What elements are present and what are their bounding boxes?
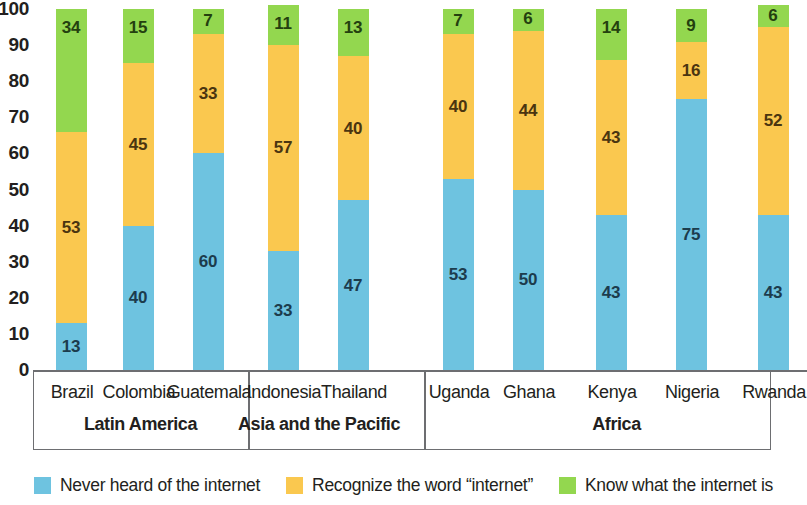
bar-kenya: 144343 — [596, 9, 627, 370]
bar-value-label: 40 — [443, 98, 474, 115]
bar-segment: 34 — [56, 9, 87, 132]
y-axis: 1009080706050403020100 — [0, 0, 33, 372]
y-axis-tick: 10 — [8, 323, 29, 345]
bar-value-label: 60 — [193, 253, 224, 270]
bar-value-label: 7 — [443, 12, 474, 29]
category-label-box: BrazilColombiaGuatemalaIndonesiaThailand… — [33, 372, 771, 450]
bar-segment: 40 — [443, 34, 474, 178]
y-axis-tick: 40 — [8, 215, 29, 237]
bar-value-label: 13 — [338, 19, 369, 36]
bar-segment: 6 — [513, 9, 544, 31]
bar-value-label: 15 — [123, 19, 154, 36]
bar-value-label: 14 — [596, 19, 627, 36]
legend-label: Recognize the word “internet” — [312, 475, 533, 496]
y-axis-tick: 30 — [8, 251, 29, 273]
legend-swatch-icon — [34, 477, 51, 494]
y-axis-tick: 70 — [8, 106, 29, 128]
y-axis-tick: 20 — [8, 287, 29, 309]
x-axis-label-thailand: Thailand — [321, 382, 387, 403]
y-axis-tick: 50 — [8, 179, 29, 201]
group-divider — [424, 372, 426, 449]
y-axis-tick: 100 — [0, 0, 29, 20]
bar-value-label: 13 — [56, 338, 87, 355]
bar-segment: 16 — [676, 42, 707, 100]
bar-segment: 43 — [758, 215, 789, 370]
bar-guatemala: 73360 — [193, 9, 224, 370]
stacked-bar-chart: 1009080706050403020100 34531315454073360… — [0, 0, 807, 505]
bar-uganda: 74053 — [443, 9, 474, 370]
bar-value-label: 43 — [758, 284, 789, 301]
y-axis-tick: 60 — [8, 142, 29, 164]
group-label-africa: Africa — [592, 414, 641, 435]
y-axis-tick: 0 — [19, 359, 29, 381]
bar-segment: 40 — [338, 56, 369, 200]
x-axis-label-colombia: Colombia — [103, 382, 176, 403]
bar-segment: 57 — [268, 45, 299, 251]
bar-segment: 47 — [338, 200, 369, 370]
bar-value-label: 43 — [596, 129, 627, 146]
x-axis-label-kenya: Kenya — [587, 382, 636, 403]
bar-segment: 43 — [596, 215, 627, 370]
legend-item[interactable]: Know what the internet is — [559, 475, 773, 496]
legend-swatch-icon — [286, 477, 303, 494]
y-axis-tick: 80 — [8, 70, 29, 92]
bar-value-label: 75 — [676, 226, 707, 243]
group-label-latin-america: Latin America — [84, 414, 197, 435]
x-axis-label-nigeria: Nigeria — [665, 382, 719, 403]
legend-item[interactable]: Recognize the word “internet” — [286, 475, 533, 496]
bar-segment: 11 — [268, 5, 299, 45]
bar-value-label: 7 — [193, 12, 224, 29]
x-axis-label-rwanda: Rwanda — [742, 382, 806, 403]
bar-value-label: 57 — [268, 139, 299, 156]
bar-segment: 13 — [338, 9, 369, 56]
bar-segment: 44 — [513, 31, 544, 190]
bar-segment: 7 — [193, 9, 224, 34]
bar-rwanda: 65243 — [758, 5, 789, 370]
bar-segment: 33 — [193, 34, 224, 153]
bar-colombia: 154540 — [123, 9, 154, 370]
bar-thailand: 134047 — [338, 9, 369, 370]
bar-segment: 33 — [268, 251, 299, 370]
legend-label: Know what the internet is — [585, 475, 773, 496]
bar-indonesia: 115733 — [268, 5, 299, 370]
bar-value-label: 50 — [513, 271, 544, 288]
x-axis-label-indonesia: Indonesia — [247, 382, 321, 403]
bar-value-label: 33 — [268, 302, 299, 319]
bar-value-label: 45 — [123, 136, 154, 153]
bar-segment: 45 — [123, 63, 154, 225]
bar-segment: 13 — [56, 323, 87, 370]
x-axis-label-uganda: Uganda — [429, 382, 490, 403]
bar-segment: 52 — [758, 27, 789, 215]
bar-ghana: 64450 — [513, 9, 544, 370]
bar-segment: 53 — [443, 179, 474, 370]
bar-value-label: 11 — [268, 15, 299, 32]
bar-brazil: 345313 — [56, 9, 87, 370]
bar-value-label: 16 — [676, 62, 707, 79]
plot-area: 3453131545407336011573313404774053644501… — [33, 9, 807, 370]
bar-segment: 14 — [596, 9, 627, 60]
bar-segment: 43 — [596, 60, 627, 215]
chart-legend: Never heard of the internetRecognize the… — [0, 468, 807, 502]
x-axis-label-ghana: Ghana — [503, 382, 555, 403]
bar-value-label: 9 — [676, 17, 707, 34]
bar-value-label: 53 — [443, 266, 474, 283]
y-axis-tick: 90 — [8, 34, 29, 56]
bar-value-label: 6 — [513, 10, 544, 27]
bar-value-label: 34 — [56, 19, 87, 36]
bar-segment: 7 — [443, 9, 474, 34]
group-label-asia-and-the-pacific: Asia and the Pacific — [238, 414, 400, 435]
bar-value-label: 47 — [338, 277, 369, 294]
bar-value-label: 40 — [338, 120, 369, 137]
x-axis-label-brazil: Brazil — [51, 382, 94, 403]
bar-segment: 40 — [123, 226, 154, 370]
bar-segment: 50 — [513, 190, 544, 371]
bar-segment: 6 — [758, 5, 789, 27]
bar-nigeria: 91675 — [676, 9, 707, 370]
legend-item[interactable]: Never heard of the internet — [34, 475, 260, 496]
bar-value-label: 43 — [596, 284, 627, 301]
bar-value-label: 53 — [56, 219, 87, 236]
bar-value-label: 33 — [193, 85, 224, 102]
bar-segment: 9 — [676, 9, 707, 41]
legend-label: Never heard of the internet — [60, 475, 260, 496]
x-axis-label-guatemala: Guatemala — [167, 382, 251, 403]
